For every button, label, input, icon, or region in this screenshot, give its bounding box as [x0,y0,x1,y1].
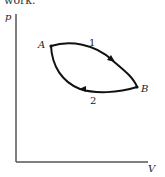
point-a-label: A [37,39,45,50]
pv-diagram: p V A B 1 2 [0,0,165,177]
x-axis-label: V [148,163,157,174]
path-2-label: 2 [90,95,96,106]
y-axis-label: p [5,11,12,22]
path-2-arrow-icon [79,86,86,92]
path-1-curve [51,43,137,87]
point-b-marker [135,85,138,88]
point-b-label: B [140,83,148,94]
path-1-label: 1 [89,37,95,48]
point-a-marker [49,44,52,47]
